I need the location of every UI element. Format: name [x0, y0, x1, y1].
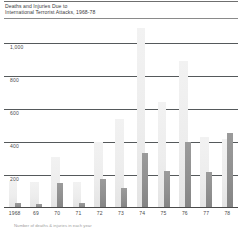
x-axis-label-1968: 1968	[4, 210, 25, 216]
x-axis-label-70: 70	[47, 210, 68, 216]
bar-deaths-78	[227, 133, 233, 208]
x-axis-label-76: 76	[174, 210, 195, 216]
bars-layer	[4, 26, 238, 208]
x-axis-label-77: 77	[196, 210, 217, 216]
bar-deaths-77	[206, 172, 212, 208]
bar-deaths-72	[100, 179, 106, 208]
chart-footnote: Number of deaths & injuries in each year	[14, 223, 224, 228]
bar-deaths-76	[185, 142, 191, 208]
bar-deaths-70	[57, 183, 63, 208]
x-axis-line	[4, 207, 238, 208]
chart-container: Deaths and Injuries Due to International…	[0, 0, 249, 233]
x-axis-label-78: 78	[217, 210, 238, 216]
title-rule-bottom	[4, 18, 238, 19]
x-axis-label-69: 69	[25, 210, 46, 216]
bar-deaths-73	[121, 188, 127, 208]
x-axis-label-71: 71	[68, 210, 89, 216]
x-axis-label-72: 72	[89, 210, 110, 216]
bar-deaths-75	[164, 171, 170, 208]
chart-title: Deaths and Injuries Due to International…	[5, 3, 185, 15]
title-rule-top	[4, 1, 238, 2]
x-axis-labels: 196869707172737475767778	[4, 210, 238, 220]
x-axis-label-74: 74	[132, 210, 153, 216]
x-axis-label-75: 75	[153, 210, 174, 216]
bar-deaths-74	[142, 153, 148, 208]
x-axis-label-73: 73	[110, 210, 131, 216]
